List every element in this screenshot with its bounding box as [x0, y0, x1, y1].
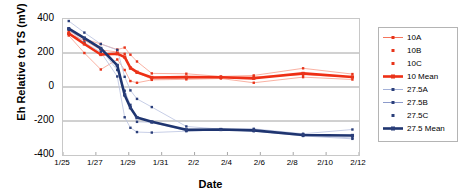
legend-item[interactable]: 10C — [382, 57, 455, 70]
legend-label: 10 Mean — [407, 71, 438, 82]
series-27-5c — [68, 29, 354, 141]
y-tick-label: 400 — [10, 12, 54, 23]
legend-label: 10A — [407, 32, 421, 43]
legend-item[interactable]: 27.5B — [382, 96, 455, 109]
legend-label: 27.5C — [407, 110, 428, 121]
legend-item[interactable]: 10 Mean — [382, 70, 455, 83]
y-tick-label: 0 — [10, 80, 54, 91]
legend-label: 10C — [407, 58, 422, 69]
legend-label: 27.5A — [407, 84, 428, 95]
series-27-5-mean — [67, 27, 354, 137]
legend-label: 27.5B — [407, 97, 428, 108]
legend-marker-icon — [382, 123, 404, 134]
legend-label: 27.5 Mean — [407, 123, 445, 134]
y-tick-label: -200 — [10, 114, 54, 125]
series-10-mean — [67, 32, 354, 80]
x-tick-label: 2/12 — [338, 158, 378, 167]
legend-marker-icon — [382, 110, 404, 121]
legend-marker-icon — [382, 84, 404, 95]
legend-item[interactable]: 27.5 Mean — [382, 122, 455, 135]
plot-svg — [63, 19, 359, 155]
legend-marker-icon — [382, 71, 404, 82]
legend-marker-icon — [382, 97, 404, 108]
chart-legend: 10A10B10C10 Mean27.5A27.5B27.5C27.5 Mean — [378, 27, 458, 142]
legend-marker-icon — [382, 32, 404, 43]
legend-marker-icon — [382, 58, 404, 69]
legend-item[interactable]: 27.5C — [382, 109, 455, 122]
legend-label: 10B — [407, 45, 421, 56]
y-tick-label: 200 — [10, 46, 54, 57]
x-axis-label: Date — [62, 178, 359, 190]
legend-item[interactable]: 27.5A — [382, 83, 455, 96]
chart-figure: Eh Relative to TS (mV) 4002000-200-400 1… — [0, 0, 462, 196]
series-27-5b — [68, 27, 354, 139]
legend-item[interactable]: 10A — [382, 31, 455, 44]
legend-marker-icon — [382, 45, 404, 56]
plot-area — [62, 18, 360, 156]
legend-item[interactable]: 10B — [382, 44, 455, 57]
